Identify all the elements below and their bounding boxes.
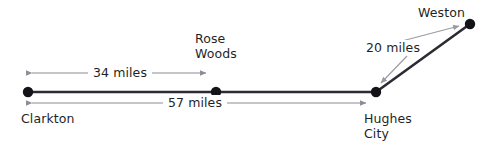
route-segment-hughescity-weston: [376, 24, 470, 92]
city-label-hughes-city: HughesCity: [364, 111, 412, 141]
city-node-hughes-city[interactable]: [371, 87, 381, 97]
city-label-weston: Weston: [418, 5, 465, 20]
route-distance-diagram: Clarkton RoseWoods HughesCity Weston 34 …: [0, 0, 496, 148]
distance-label-57-miles: 57 miles: [163, 95, 227, 110]
city-label-hughes-city-line2: City: [364, 126, 389, 141]
city-label-hughes-city-line1: Hughes: [364, 111, 412, 126]
city-node-clarkton[interactable]: [23, 87, 33, 97]
city-label-rose-woods-line2: Woods: [195, 46, 237, 61]
city-label-rose-woods-line1: Rose: [195, 31, 225, 46]
city-label-clarkton: Clarkton: [21, 111, 75, 126]
distance-label-34-miles: 34 miles: [88, 65, 152, 80]
city-label-rose-woods: RoseWoods: [195, 31, 237, 61]
distance-label-20-miles: 20 miles: [361, 40, 425, 55]
city-node-weston[interactable]: [465, 19, 475, 29]
